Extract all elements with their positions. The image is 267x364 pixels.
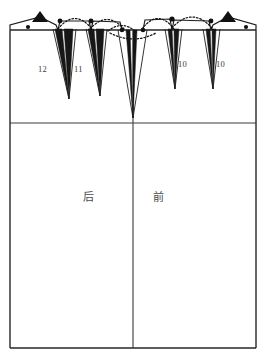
waist-dot-7 xyxy=(209,19,214,24)
dart-label-12: 12 xyxy=(38,64,47,74)
dart-label-10-left: 10 xyxy=(178,59,187,69)
dart-label-11: 11 xyxy=(74,64,83,74)
waist-dot-4 xyxy=(120,28,125,33)
dotted-arc-1 xyxy=(58,19,92,30)
piece-label-back: 后 xyxy=(83,188,94,204)
shoulder-marker-left-icon xyxy=(32,11,48,22)
waist-dot-3 xyxy=(89,19,94,24)
waist-segment-far-left xyxy=(10,17,58,30)
dart-label-10-right: 10 xyxy=(216,59,225,69)
dart-center-wedge-left xyxy=(126,30,133,118)
dart-12 xyxy=(53,29,76,99)
dart-11 xyxy=(86,29,107,96)
waist-dot-1 xyxy=(26,25,30,29)
waist-dot-8 xyxy=(244,25,248,29)
piece-label-front: 前 xyxy=(153,188,164,204)
waist-dot-5 xyxy=(141,28,146,33)
pattern-canvas: 12 11 10 10 后 前 xyxy=(0,0,267,364)
waist-dot-6 xyxy=(169,16,174,21)
raised-waist-outline xyxy=(10,17,256,30)
dotted-arc-4 xyxy=(172,17,212,28)
shoulder-marker-right-icon xyxy=(220,11,236,22)
waist-segment-5 xyxy=(172,20,211,30)
waist-segment-4 xyxy=(143,19,172,30)
waist-dot-2 xyxy=(58,19,63,24)
pattern-drawing-svg xyxy=(0,0,267,364)
